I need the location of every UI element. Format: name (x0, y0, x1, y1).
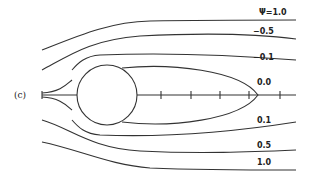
streamline-psi-0-upstream-bot (42, 97, 72, 110)
label-zero: 0.0 (257, 78, 272, 87)
cylinder-body (77, 65, 137, 125)
streamline-psi-0-upstream-top (42, 80, 72, 93)
streamline-diagram: (c) Ψ=1.0 −0.5 −0.1 0.0 0.1 0.5 1.0 (0, 0, 313, 179)
label-bot-1-0: 1.0 (257, 158, 272, 167)
streamline-psi-neg-0-5 (42, 34, 296, 70)
panel-label: (c) (14, 90, 26, 100)
label-bot-0-5: 0.5 (257, 141, 272, 150)
label-top-0-1: −0.1 (253, 53, 274, 62)
label-bot-0-1: 0.1 (257, 116, 272, 125)
label-psi-top: Ψ=1.0 (259, 8, 287, 17)
label-top-0-5: −0.5 (253, 27, 274, 36)
